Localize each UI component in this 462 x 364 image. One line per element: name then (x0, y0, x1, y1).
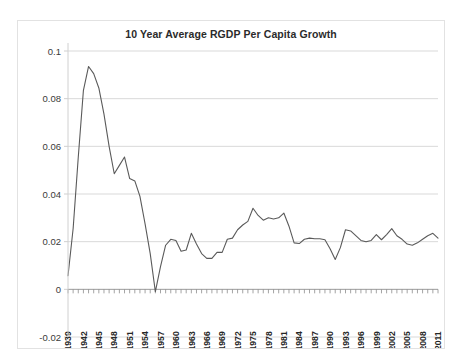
y-axis-tick-label: 0.04 (43, 189, 62, 200)
y-axis-tick-label: 0.02 (43, 236, 62, 247)
x-axis-tick-label: 1972 (233, 331, 243, 348)
y-axis-tick-label: -0.02 (39, 332, 61, 343)
chart-panel: 10 Year Average RGDP Per Capita Growth 0… (17, 20, 445, 349)
y-axis-tick-label: 0.1 (48, 46, 61, 57)
y-axis-tick-label: 0 (56, 284, 61, 295)
x-axis-tick-label: 1963 (187, 331, 197, 348)
x-axis-tick-label: 1996 (356, 331, 366, 348)
line-chart-plot: 0.10.080.060.040.020-0.02193919421945194… (18, 21, 444, 348)
x-axis-tick-label: 1981 (279, 331, 289, 348)
x-axis-tick-label: 2011 (433, 331, 443, 348)
y-axis-tick-label: 0.08 (43, 93, 62, 104)
y-axis-tick-label: 0.06 (43, 141, 62, 152)
x-axis-tick-label: 1954 (140, 331, 150, 348)
x-axis-tick-label: 1948 (109, 331, 119, 348)
x-axis-tick-label: 1990 (325, 331, 335, 348)
x-axis-tick-label: 1993 (341, 331, 351, 348)
x-axis-tick-label: 1966 (202, 331, 212, 348)
x-axis-tick-label: 1975 (248, 331, 258, 348)
x-axis-tick-label: 1969 (217, 331, 227, 348)
x-axis-tick-label: 1987 (310, 331, 320, 348)
x-axis-tick-label: 1957 (156, 331, 166, 348)
x-axis-tick-label: 1942 (79, 331, 89, 348)
data-series-line (68, 66, 438, 291)
x-axis-tick-label: 1945 (94, 331, 104, 348)
top-cropped-strip (0, 0, 462, 13)
x-axis-tick-label: 1960 (171, 331, 181, 348)
x-axis-tick-label: 1978 (264, 331, 274, 348)
x-axis-tick-label: 1951 (125, 331, 135, 348)
x-axis-tick-label: 1999 (372, 331, 382, 348)
x-axis-tick-label: 2002 (387, 331, 397, 348)
x-axis-tick-label: 2005 (402, 331, 412, 348)
x-axis-tick-label: 2008 (418, 331, 428, 348)
x-axis-tick-label: 1984 (294, 331, 304, 348)
